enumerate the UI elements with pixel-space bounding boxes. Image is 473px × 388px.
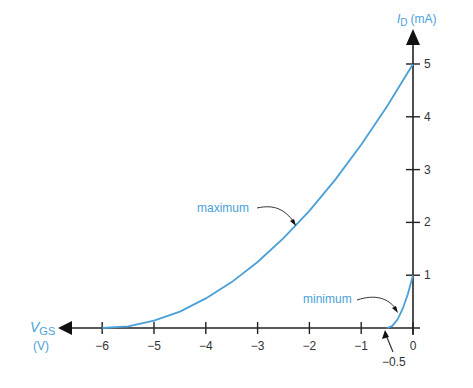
minimum-label: minimum	[303, 292, 352, 306]
x-axis-unit: (V)	[33, 339, 49, 353]
x-axis-arrow-icon	[58, 321, 72, 335]
y-axis-label: ID(mA)	[397, 12, 437, 28]
maximum-arrowhead-icon	[290, 219, 296, 226]
x-ticks: −6−5−4−3−2−10	[95, 322, 416, 353]
x-axis-label: VGS	[30, 319, 55, 337]
y-ticks: 12345	[406, 57, 431, 282]
minimum-arrowhead-icon	[392, 306, 398, 313]
y-tick-label: 2	[424, 215, 431, 229]
maximum-label: maximum	[197, 201, 249, 215]
pinchoff-arrowhead-icon	[382, 330, 389, 339]
x-tick-label: −1	[354, 339, 368, 353]
minimum-leader-arrow	[357, 297, 396, 309]
x-tick-label: −3	[251, 339, 265, 353]
minimum-curve	[387, 275, 413, 328]
y-tick-label: 4	[424, 110, 431, 124]
maximum-leader-arrow	[257, 207, 294, 222]
y-axis-arrow-icon	[406, 29, 420, 45]
x-tick-label: −4	[199, 339, 213, 353]
x-tick-label: 0	[410, 339, 417, 353]
pinchoff-label: −0.5	[382, 355, 406, 369]
x-tick-label: −6	[95, 339, 109, 353]
y-tick-label: 3	[424, 163, 431, 177]
y-tick-label: 1	[424, 268, 431, 282]
maximum-curve	[102, 64, 413, 328]
transfer-characteristic-chart: −6−5−4−3−2−10 12345 maximum minimum −0.5…	[0, 0, 473, 388]
y-tick-label: 5	[424, 57, 431, 71]
x-tick-label: −2	[303, 339, 317, 353]
x-tick-label: −5	[147, 339, 161, 353]
